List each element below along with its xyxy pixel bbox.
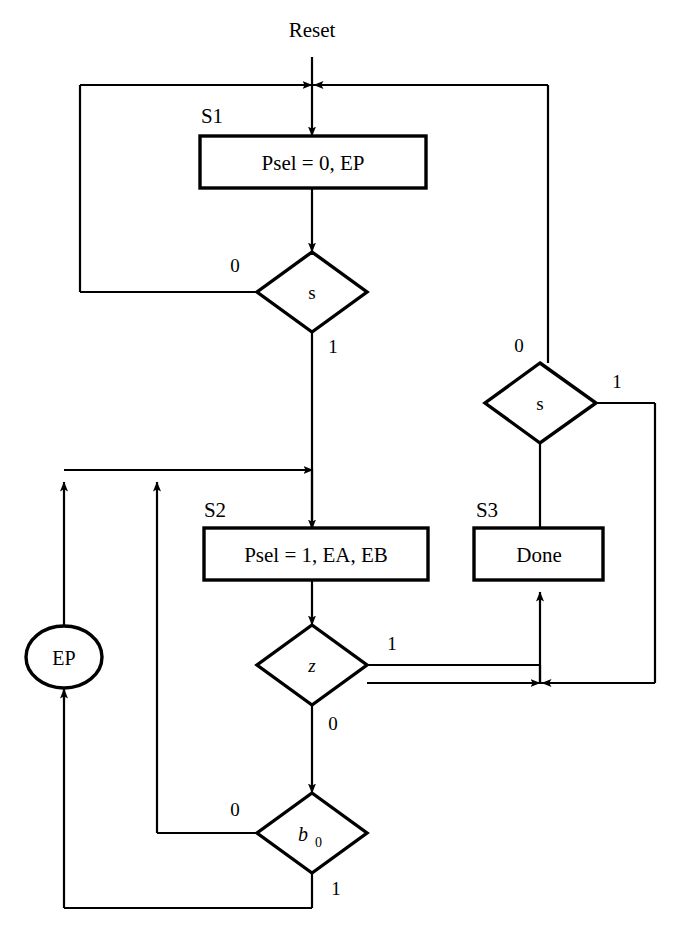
branch-label-d2-one: 1 [612,371,622,392]
decision-text-d1: s [308,282,315,303]
branch-label-d3-one: 1 [387,633,397,654]
decision-diamond-d4 [257,793,367,873]
state-label-s3: S3 [476,498,498,522]
state-label-s2: S2 [204,498,226,522]
reset-label: Reset [289,18,336,42]
decision-text-d4-subscript: 0 [315,835,322,850]
state-text-s2: Psel = 1, EA, EB [244,543,388,567]
state-text-s1: Psel = 0, EP [262,151,365,175]
branch-label-d1-zero: 0 [230,255,240,276]
branch-label-d4-zero: 0 [230,799,240,820]
decision-text-d2: s [536,393,543,414]
branch-label-d3-zero: 0 [328,713,338,734]
branch-label-d4-one: 1 [331,878,341,899]
output-text-ep: EP [52,647,75,669]
asm-chart-canvas: Reset S1 Psel = 0, EP S2 Psel = 1, EA, E… [0,0,686,947]
state-text-s3: Done [516,543,562,567]
flowchart-svg: Reset S1 Psel = 0, EP S2 Psel = 1, EA, E… [0,0,686,947]
state-label-s1: S1 [201,104,223,128]
decision-text-d3: z [307,655,316,676]
branch-label-d2-zero: 0 [514,335,524,356]
decision-text-d4-base: b [298,823,308,845]
branch-label-d1-one: 1 [328,336,338,357]
